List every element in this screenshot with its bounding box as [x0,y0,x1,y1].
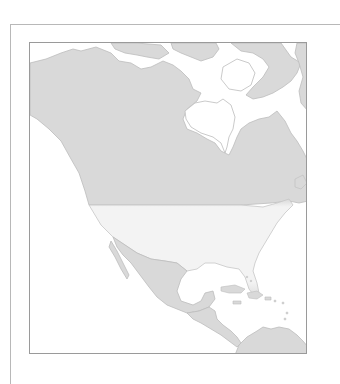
region-central-america[interactable] [187,307,241,347]
region-south-america[interactable] [235,327,307,354]
map-frame: North America [29,42,307,354]
region-arctic-islands[interactable] [111,43,169,59]
region-greenland-edge[interactable] [295,43,307,111]
region-arctic-islands-2[interactable] [171,43,219,61]
north-america-map [30,43,307,354]
region-canada[interactable] [30,47,307,205]
foxe-basin [221,59,255,91]
